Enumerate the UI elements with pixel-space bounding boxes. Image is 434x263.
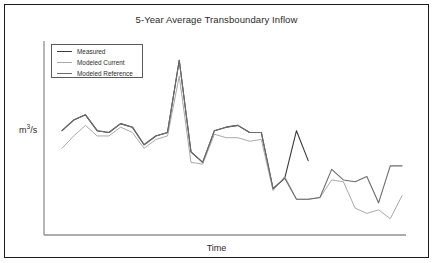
series-line-modeled-current xyxy=(62,76,402,219)
legend-item-measured: Measured xyxy=(52,46,142,56)
legend-label-measured: Measured xyxy=(77,48,105,55)
legend-item-modeled-reference: Modeled Reference xyxy=(52,68,142,78)
legend-label-modeled-reference: Modeled Reference xyxy=(77,70,133,77)
legend-swatch-modeled-reference xyxy=(57,73,72,74)
data-series-group xyxy=(62,60,402,218)
legend-item-modeled-current: Modeled Current xyxy=(52,57,142,67)
legend-swatch-measured xyxy=(57,51,72,52)
figure-frame: 5-Year Average Transboundary Inflow m3/s… xyxy=(4,4,429,258)
series-line-measured xyxy=(62,60,308,188)
legend-swatch-modeled-current xyxy=(57,62,72,63)
legend: Measured Modeled Current Modeled Referen… xyxy=(51,44,143,78)
series-line-modeled-reference xyxy=(62,60,402,203)
legend-label-modeled-current: Modeled Current xyxy=(77,59,125,66)
